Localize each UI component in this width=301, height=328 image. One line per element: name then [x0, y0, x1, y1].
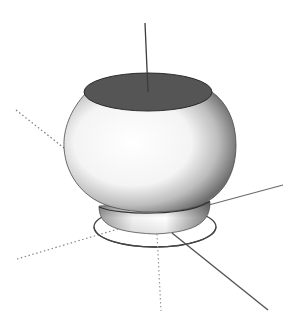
- green-axis: [172, 233, 268, 310]
- modeling-viewport[interactable]: [0, 0, 301, 328]
- vertical-axis-negative: [157, 234, 161, 311]
- scene-canvas[interactable]: [0, 0, 301, 328]
- red-axis-negative: [16, 110, 64, 148]
- green-axis-negative: [17, 229, 118, 259]
